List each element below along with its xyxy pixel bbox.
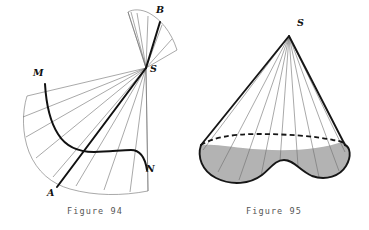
label-B: B: [155, 4, 164, 15]
upper-sheet-outline: [128, 10, 177, 68]
figure-95-panel: S Figure 95: [179, 0, 369, 230]
figure-95-caption: Figure 95: [179, 206, 369, 216]
figure-94-labels: B S M N A: [32, 4, 164, 198]
base-fill-shape: [200, 141, 350, 183]
lower-fan-generators: [23, 68, 148, 192]
label-S-apex: S: [297, 17, 304, 28]
cone-base-region: [200, 141, 350, 183]
figure-page: B S M N A Figure 94: [0, 0, 369, 230]
base-hidden-rim: [201, 134, 345, 145]
label-A: A: [46, 187, 54, 198]
upper-fan-generators: [128, 12, 177, 68]
figure-95-drawing: S: [179, 0, 369, 230]
figure-95-labels: S: [297, 17, 304, 28]
figure-94-drawing: B S M N A: [0, 0, 190, 230]
label-S: S: [150, 63, 157, 74]
label-M: M: [32, 67, 44, 78]
figure-94-panel: B S M N A Figure 94: [0, 0, 190, 230]
sector-outer-boundary: [23, 96, 148, 195]
label-N: N: [145, 163, 155, 174]
figure-94-caption: Figure 94: [0, 206, 190, 216]
